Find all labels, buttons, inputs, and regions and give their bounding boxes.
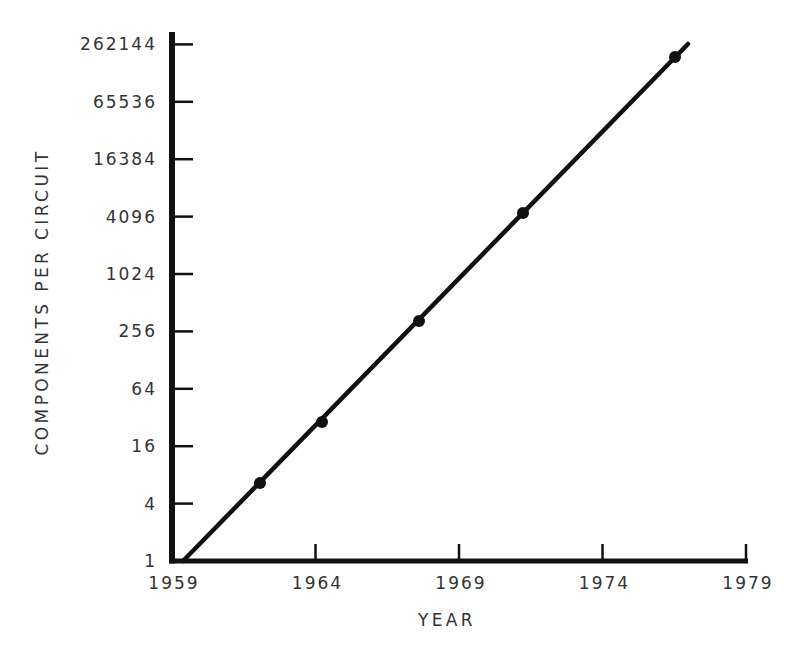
x-tick-label: 1964 (292, 573, 343, 593)
y-axis: 141664256102440961638465536262144 (80, 32, 193, 571)
data-point-marker (517, 207, 529, 219)
chart: 141664256102440961638465536262144 195919… (0, 0, 803, 655)
x-axis: 19591964196919741979 (148, 544, 773, 593)
x-tick-label: 1959 (148, 573, 199, 593)
data-series (183, 44, 688, 561)
y-axis-title: COMPONENTS PER CIRCUIT (32, 149, 52, 456)
data-point-marker (413, 315, 425, 327)
x-tick-label: 1979 (722, 573, 773, 593)
x-axis-title: YEAR (417, 610, 476, 630)
y-tick-label: 1024 (106, 264, 157, 284)
y-tick-label: 16 (131, 436, 157, 456)
x-tick-label: 1974 (579, 573, 630, 593)
y-tick-label: 256 (119, 321, 157, 341)
y-tick-label: 262144 (80, 34, 157, 54)
y-tick-label: 1 (144, 551, 157, 571)
data-point-marker (254, 477, 266, 489)
y-tick-label: 4096 (106, 207, 157, 227)
data-point-marker (316, 416, 328, 428)
y-tick-label: 64 (131, 379, 157, 399)
y-tick-label: 65536 (93, 92, 157, 112)
y-tick-label: 16384 (93, 149, 157, 169)
y-tick-label: 4 (144, 494, 157, 514)
x-tick-label: 1969 (435, 573, 486, 593)
data-point-marker (669, 51, 681, 63)
